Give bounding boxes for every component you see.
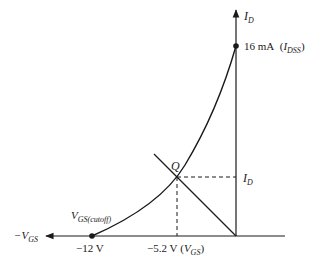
cutoff-point	[89, 233, 95, 239]
vgs-axis-label: −VGS	[14, 230, 38, 244]
cutoff-value-label: −12 V	[76, 243, 104, 254]
id-axis-label: ID	[244, 10, 254, 25]
vgs-cutoff-label: VGS(cutoff)	[71, 210, 111, 224]
vgsq-label: −5.2 V (VGS)	[147, 243, 204, 257]
q-point-label: Q	[171, 160, 180, 172]
load-line	[154, 154, 236, 236]
idss-point	[233, 43, 239, 49]
idss-label: 16 mA (IDSS)	[244, 41, 305, 55]
transfer-curve	[92, 46, 236, 236]
idq-label: ID	[243, 172, 253, 187]
